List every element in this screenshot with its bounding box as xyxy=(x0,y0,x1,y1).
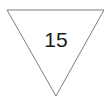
inverted-triangle-shape xyxy=(7,10,104,96)
triangle-value-label: 15 xyxy=(44,29,67,50)
figure-canvas: 15 xyxy=(0,0,110,101)
geometry-diagram-svg xyxy=(0,0,110,101)
